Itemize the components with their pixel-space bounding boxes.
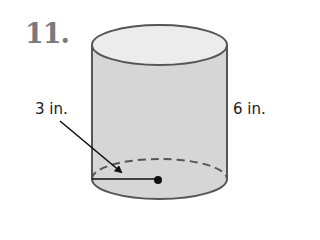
height-label: 6 in. [233, 100, 266, 118]
radius-label: 3 in. [35, 100, 68, 118]
cylinder-body [92, 45, 227, 199]
top-face [92, 25, 227, 65]
center-point [154, 176, 162, 184]
